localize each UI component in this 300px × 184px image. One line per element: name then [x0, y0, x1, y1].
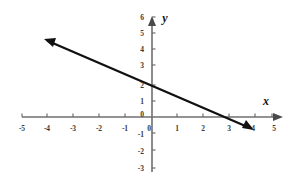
- x-tick-label: 5: [272, 124, 276, 133]
- y-axis: [148, 16, 156, 172]
- x-tick-label: -5: [19, 124, 25, 133]
- y-tick-label-zero: 0: [140, 110, 144, 119]
- x-tick-label: -3: [70, 124, 76, 133]
- y-tick-label: -3: [138, 164, 144, 173]
- x-tick-label-zero: 0: [147, 124, 151, 133]
- y-tick-label: 2: [140, 81, 144, 90]
- line-start-arrowhead: [44, 38, 56, 47]
- graph-figure: -5 -4 -3 -2 -1 0 1 2 3 4 5 6 5 4 3 2 1 0…: [0, 0, 300, 184]
- coordinate-plane-svg: -5 -4 -3 -2 -1 0 1 2 3 4 5 6 5 4 3 2 1 0…: [0, 0, 300, 184]
- y-tick-label: -2: [138, 147, 144, 156]
- x-tick-label: 3: [227, 124, 231, 133]
- x-tick-labels: -5 -4 -3 -2 -1 0 1 2 3 4 5: [19, 124, 276, 133]
- x-tick-label: 4: [251, 124, 255, 133]
- x-tick-label: 1: [175, 124, 179, 133]
- y-tick-label: 5: [140, 29, 144, 38]
- x-tick-label: -1: [122, 124, 128, 133]
- y-tick-labels: 6 5 4 3 2 1 0 -1 -2 -3: [138, 13, 145, 173]
- x-axis-name-label: x: [262, 94, 269, 108]
- x-tick-label: -4: [44, 124, 50, 133]
- y-tick-label: 3: [140, 61, 144, 70]
- line-segment: [48, 41, 250, 128]
- x-axis-arrowhead: [273, 113, 283, 121]
- y-tick-label: 4: [140, 45, 144, 54]
- y-axis-name-label: y: [160, 11, 168, 25]
- x-tick-label: 2: [201, 124, 205, 133]
- y-tick-label: 1: [140, 97, 144, 106]
- y-tick-label: 6: [140, 13, 144, 22]
- x-tick-label: -2: [96, 124, 102, 133]
- y-tick-label: -1: [138, 130, 144, 139]
